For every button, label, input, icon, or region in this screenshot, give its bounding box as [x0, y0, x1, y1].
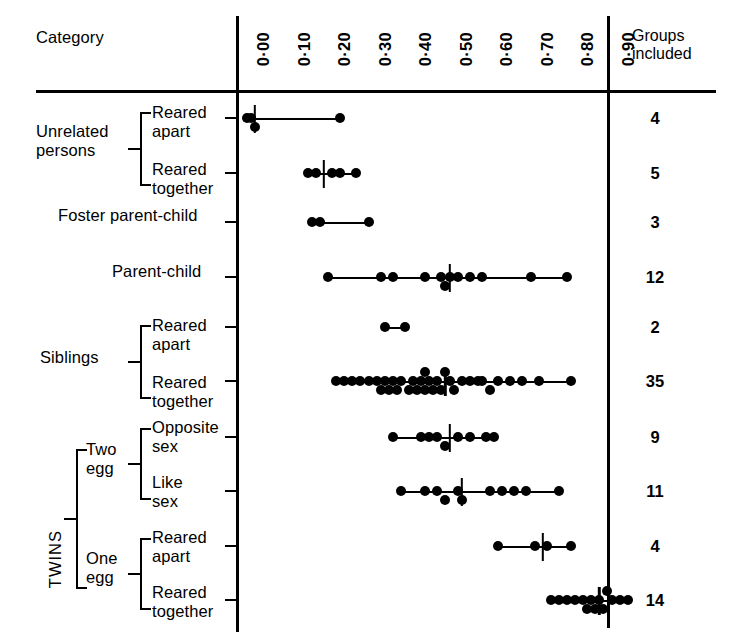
data-point — [517, 376, 527, 386]
axis-tick-label-1: 0·10 — [295, 32, 314, 66]
category-label-twins: TWINS — [46, 530, 65, 588]
data-point — [449, 385, 459, 395]
data-point — [566, 376, 576, 386]
groups-included-value: 9 — [632, 428, 678, 447]
median-marker — [448, 424, 450, 452]
row-axis-tick — [225, 545, 238, 547]
median-marker — [541, 533, 543, 561]
groups-included-value: 5 — [632, 164, 678, 183]
data-point — [477, 272, 487, 282]
row-range-line — [247, 118, 340, 120]
data-point — [323, 272, 333, 282]
data-point — [453, 432, 463, 442]
groups-included-value: 35 — [632, 372, 678, 391]
row-axis-tick — [225, 117, 238, 119]
median-marker — [323, 160, 325, 188]
groups-included-value: 2 — [632, 318, 678, 337]
data-point — [485, 486, 495, 496]
data-point — [311, 168, 321, 178]
data-point — [364, 217, 374, 227]
kinship-correlation-chart: Category Groups included 0·000·100·200·3… — [0, 0, 742, 644]
groups-included-value: 4 — [632, 537, 678, 556]
median-marker — [460, 478, 462, 506]
median-marker — [448, 264, 450, 292]
median-marker — [254, 105, 256, 133]
data-point — [485, 385, 495, 395]
data-point — [489, 432, 499, 442]
data-point — [420, 272, 430, 282]
axis-tick-label-3: 0·30 — [376, 32, 395, 66]
row-axis-tick — [225, 326, 238, 328]
data-point — [566, 541, 576, 551]
data-point — [562, 272, 572, 282]
axis-tick-label-7: 0·70 — [538, 32, 557, 66]
data-point — [521, 486, 531, 496]
header-category-label: Category — [36, 28, 104, 47]
data-point — [335, 168, 345, 178]
data-point — [493, 376, 503, 386]
header-groups-line2: included — [632, 45, 692, 63]
sublabel-twins-opposite-sex: Opposite sex — [152, 418, 219, 456]
data-point — [465, 432, 475, 442]
data-point — [420, 486, 430, 496]
category-label-one-egg: One egg — [86, 549, 118, 587]
header-groups-line1: Groups — [632, 27, 692, 45]
data-point — [392, 385, 402, 395]
sublabel-siblings-reared-apart: Reared apart — [152, 316, 207, 354]
data-point — [388, 432, 398, 442]
data-point — [509, 486, 519, 496]
row-axis-tick — [225, 490, 238, 492]
data-point — [497, 486, 507, 496]
data-point — [493, 541, 503, 551]
category-label-two-egg: Two egg — [86, 440, 117, 478]
data-point — [554, 486, 564, 496]
row-axis-tick — [225, 172, 238, 174]
data-point — [505, 376, 515, 386]
row-axis-tick — [225, 599, 238, 601]
header-groups-included-label: Groups included — [632, 27, 692, 63]
groups-included-value: 14 — [632, 591, 678, 610]
axis-tick-label-0: 0·00 — [254, 32, 273, 66]
data-point — [376, 272, 386, 282]
groups-included-value: 11 — [632, 482, 678, 501]
data-point — [400, 322, 410, 332]
axis-tick-label-6: 0·60 — [497, 32, 516, 66]
data-point — [530, 541, 540, 551]
axis-tick-label-8: 0·80 — [578, 32, 597, 66]
sublabel-unrelated-reared-apart: Reared apart — [152, 103, 207, 141]
data-point — [465, 272, 475, 282]
data-point — [335, 113, 345, 123]
axis-line-left — [236, 16, 239, 632]
data-point — [526, 272, 536, 282]
sublabel-unrelated-reared-together: Reared together — [152, 160, 213, 198]
median-marker — [444, 368, 446, 396]
data-point — [388, 272, 398, 282]
category-label-unrelated-persons: Unrelated persons — [36, 122, 108, 160]
sublabel-twins-one-egg-reared-apart: Reared apart — [152, 528, 207, 566]
median-marker — [598, 587, 600, 615]
axis-tick-label-9: 0·90 — [619, 32, 638, 66]
data-point — [380, 322, 390, 332]
axis-tick-label-5: 0·50 — [457, 32, 476, 66]
data-point — [534, 376, 544, 386]
sublabel-twins-one-egg-reared-together: Reared together — [152, 583, 213, 621]
groups-included-value: 3 — [632, 213, 678, 232]
row-axis-tick — [225, 221, 238, 223]
axis-tick-label-2: 0·20 — [335, 32, 354, 66]
sublabel-twins-like-sex: Like sex — [152, 473, 183, 511]
sublabel-siblings-reared-together: Reared together — [152, 373, 213, 411]
category-label-foster-parent-child: Foster parent-child — [58, 206, 197, 225]
row-axis-tick — [225, 380, 238, 382]
data-point — [432, 432, 442, 442]
data-point — [351, 168, 361, 178]
category-label-siblings: Siblings — [40, 348, 99, 367]
data-point — [477, 376, 487, 386]
groups-included-value: 12 — [632, 268, 678, 287]
data-point — [396, 376, 406, 386]
data-point — [453, 272, 463, 282]
data-point — [440, 495, 450, 505]
axis-line-right — [607, 16, 610, 628]
row-axis-tick — [225, 276, 238, 278]
axis-tick-label-4: 0·40 — [416, 32, 435, 66]
groups-included-value: 4 — [632, 109, 678, 128]
